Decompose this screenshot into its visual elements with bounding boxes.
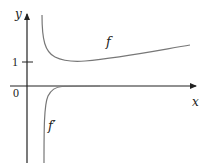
curve-f-prime-label: f′ <box>47 118 56 133</box>
y-axis-label: y <box>14 7 22 21</box>
function-graph: y x 0 1 f f′ <box>0 0 211 163</box>
curve-f-label: f <box>105 34 113 49</box>
curve-f <box>42 15 190 61</box>
x-axis-label: x <box>192 95 199 109</box>
origin-label: 0 <box>13 86 19 100</box>
y-tick-label: 1 <box>12 55 18 69</box>
